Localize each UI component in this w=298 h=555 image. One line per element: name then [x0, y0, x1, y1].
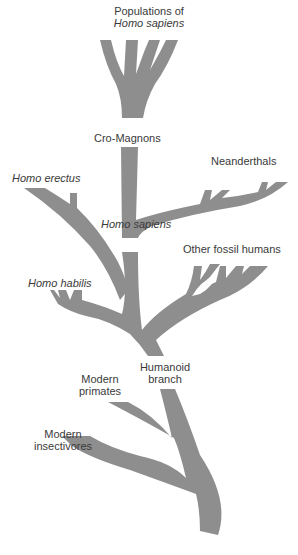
- branch-main-trunk: [50, 252, 268, 356]
- label-humanoid-line2: branch: [135, 373, 195, 385]
- label-primates-line1: Modern: [72, 373, 128, 385]
- label-populations-line2: Homo sapiens: [108, 17, 190, 29]
- label-primates-line2: primates: [72, 385, 128, 397]
- label-cro-magnons: Cro-Magnons: [94, 132, 161, 144]
- label-homo-habilis: Homo habilis: [28, 277, 92, 289]
- label-homo-sapiens: Homo sapiens: [101, 218, 171, 230]
- label-homo-erectus: Homo erectus: [12, 172, 80, 184]
- label-populations-line1: Populations of: [108, 5, 190, 17]
- label-insectivores-line2: insectivores: [32, 440, 94, 452]
- branch-lower-trunk: [62, 389, 221, 535]
- label-neanderthals: Neanderthals: [211, 155, 276, 167]
- branch-populations: [100, 40, 178, 118]
- label-other-fossil-humans: Other fossil humans: [183, 243, 281, 255]
- label-humanoid-line1: Humanoid: [135, 361, 195, 373]
- label-insectivores-line1: Modern: [32, 428, 94, 440]
